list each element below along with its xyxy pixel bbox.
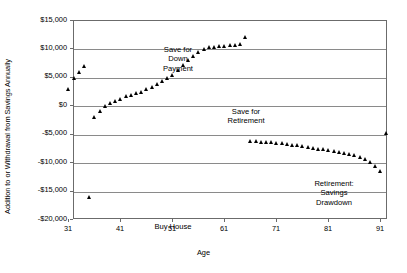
data-point-marker: [87, 195, 91, 199]
x-axis-tick-label: 61: [204, 224, 244, 233]
x-axis-tick-label: 81: [308, 224, 348, 233]
data-point-marker: [352, 153, 356, 157]
data-point-marker: [337, 150, 341, 154]
data-point-marker: [150, 85, 154, 89]
data-point-marker: [118, 97, 122, 101]
x-axis-tick-label: 51: [152, 224, 192, 233]
x-axis-tick-mark: [224, 219, 225, 222]
data-point-marker: [300, 144, 304, 148]
data-point-marker: [212, 45, 216, 49]
data-point-marker: [160, 79, 164, 83]
plot-area: Save for Down Payment Save for Retiremen…: [73, 20, 387, 219]
data-point-marker: [243, 35, 247, 39]
x-axis-tick-label: 31: [48, 224, 88, 233]
data-point-marker: [347, 152, 351, 156]
data-point-marker: [92, 115, 96, 119]
data-point-marker: [254, 139, 258, 143]
data-point-marker: [129, 93, 133, 97]
annotation-retirement-savings-drawdown: Retirement: Savings Drawdown: [301, 179, 367, 207]
data-point-marker: [82, 64, 86, 68]
data-point-marker: [378, 169, 382, 173]
data-point-marker: [384, 131, 388, 135]
x-axis-tick-mark: [328, 219, 329, 222]
data-point-marker: [285, 142, 289, 146]
data-point-marker: [222, 44, 226, 48]
y-axis-tick-label: $5,000: [7, 72, 67, 80]
annotation-save-for-down-payment: Save for Down Payment: [152, 45, 204, 73]
data-point-marker: [342, 151, 346, 155]
gridline: [74, 78, 386, 79]
data-point-marker: [66, 87, 70, 91]
annotation-save-for-retirement: Save for Retirement: [217, 107, 275, 126]
data-point-marker: [77, 70, 81, 74]
data-point-marker: [290, 143, 294, 147]
savings-chart: Addition to or Withdrawal from Savings A…: [0, 0, 407, 273]
gridline: [74, 49, 386, 50]
data-point-marker: [139, 90, 143, 94]
x-axis-tick-mark: [276, 219, 277, 222]
x-axis-tick-label: 41: [100, 224, 140, 233]
data-point-marker: [228, 43, 232, 47]
y-axis-tick-label: $15,000: [7, 16, 67, 24]
data-point-marker: [311, 146, 315, 150]
data-point-marker: [217, 44, 221, 48]
data-point-marker: [238, 42, 242, 46]
x-axis-tick-mark: [172, 219, 173, 222]
data-point-marker: [373, 164, 377, 168]
y-axis-tick-label: -$15,000: [7, 186, 67, 194]
data-point-marker: [259, 140, 263, 144]
data-point-marker: [363, 157, 367, 161]
data-point-marker: [321, 147, 325, 151]
data-point-marker: [358, 155, 362, 159]
x-axis-tick-mark: [380, 219, 381, 222]
data-point-marker: [144, 87, 148, 91]
data-point-marker: [134, 91, 138, 95]
data-point-marker: [155, 82, 159, 86]
data-point-marker: [264, 140, 268, 144]
data-point-marker: [103, 104, 107, 108]
data-point-marker: [124, 94, 128, 98]
y-axis-tick-label: -$5,000: [7, 129, 67, 137]
data-point-marker: [233, 43, 237, 47]
data-point-marker: [274, 141, 278, 145]
gridline: [74, 163, 386, 164]
data-point-marker: [368, 160, 372, 164]
data-point-marker: [108, 101, 112, 105]
data-point-marker: [269, 140, 273, 144]
data-point-marker: [165, 76, 169, 80]
data-point-marker: [306, 145, 310, 149]
gridline: [74, 135, 386, 136]
data-point-marker: [72, 76, 76, 80]
x-axis-tick-label: 71: [256, 224, 296, 233]
y-axis-tick-mark: [70, 219, 73, 220]
data-point-marker: [332, 149, 336, 153]
y-axis-tick-label: -$10,000: [7, 158, 67, 166]
data-point-marker: [113, 99, 117, 103]
x-axis-tick-label: 91: [360, 224, 400, 233]
y-axis-tick-label: -$20,000: [7, 215, 67, 223]
data-point-marker: [207, 45, 211, 49]
data-point-marker: [280, 141, 284, 145]
data-point-marker: [295, 143, 299, 147]
data-point-marker: [248, 139, 252, 143]
data-point-marker: [98, 109, 102, 113]
data-point-marker: [326, 148, 330, 152]
y-axis-tick-label: $0: [7, 101, 67, 109]
x-axis-title: Age: [0, 248, 407, 257]
data-point-marker: [316, 147, 320, 151]
y-axis-tick-label: $10,000: [7, 44, 67, 52]
x-axis-tick-mark: [68, 219, 69, 222]
x-axis-tick-mark: [120, 219, 121, 222]
